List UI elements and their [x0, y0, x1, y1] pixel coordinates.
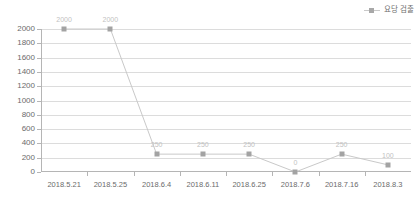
y-axis-tick-label: 1000 — [1, 97, 35, 105]
line-chart: 요당 검출 2000180016001400120010008006004002… — [0, 0, 420, 208]
y-axis-tick-mark — [37, 129, 41, 130]
y-axis-tick-label: 400 — [1, 139, 35, 147]
y-axis-tick-mark — [37, 72, 41, 73]
y-axis-tick-mark — [37, 143, 41, 144]
data-point-label: 250 — [243, 141, 255, 149]
gridline — [42, 101, 411, 102]
legend-marker-icon — [369, 8, 374, 13]
gridline — [42, 43, 411, 44]
y-axis-tick-mark — [37, 101, 41, 102]
x-axis-tick-label: 2018.6.11 — [186, 180, 219, 189]
x-axis-tick-mark — [365, 172, 366, 176]
y-axis-tick-label: 800 — [1, 111, 35, 119]
y-axis-tick-label: 1600 — [1, 54, 35, 62]
x-axis-tick-mark — [319, 172, 320, 176]
gridline — [42, 72, 411, 73]
plot-area — [41, 29, 411, 172]
gridline — [42, 129, 411, 130]
x-axis-tick-mark — [226, 172, 227, 176]
data-point-label: 100 — [382, 152, 394, 160]
y-axis-tick-label: 1400 — [1, 68, 35, 76]
data-point-marker[interactable] — [247, 152, 252, 157]
legend-line-swatch — [364, 10, 380, 11]
gridline — [42, 158, 411, 159]
y-axis-tick-mark — [37, 86, 41, 87]
x-axis-tick-label: 2018.6.4 — [142, 180, 171, 189]
x-axis-tick-label: 2018.8.3 — [373, 180, 402, 189]
data-point-label: 2000 — [103, 16, 119, 24]
data-point-marker[interactable] — [293, 170, 298, 175]
data-point-marker[interactable] — [339, 152, 344, 157]
data-point-label: 250 — [197, 141, 209, 149]
gridline — [42, 86, 411, 87]
x-axis-tick-mark — [87, 172, 88, 176]
gridline — [42, 115, 411, 116]
data-point-label: 2000 — [56, 16, 72, 24]
y-axis-tick-mark — [37, 158, 41, 159]
data-point-label: 250 — [336, 141, 348, 149]
data-point-marker[interactable] — [62, 27, 67, 32]
data-point-marker[interactable] — [108, 27, 113, 32]
x-axis-tick-label: 2018.6.25 — [232, 180, 265, 189]
x-axis-tick-label: 2018.7.6 — [281, 180, 310, 189]
y-axis-tick-mark — [37, 172, 41, 173]
legend-item-label: 요당 검출 — [384, 5, 414, 15]
data-point-label: 0 — [293, 159, 297, 167]
y-axis-tick-mark — [37, 29, 41, 30]
x-axis-tick-mark — [180, 172, 181, 176]
y-axis-tick-label: 200 — [1, 154, 35, 162]
x-axis-tick-label: 2018.7.16 — [325, 180, 358, 189]
data-point-label: 250 — [151, 141, 163, 149]
x-axis-tick-label: 2018.5.21 — [47, 180, 80, 189]
y-axis-tick-mark — [37, 58, 41, 59]
data-point-marker[interactable] — [154, 152, 159, 157]
x-axis-tick-label: 2018.5.25 — [94, 180, 127, 189]
gridline — [42, 29, 411, 30]
chart-legend: 요당 검출 — [364, 4, 414, 16]
y-axis-tick-label: 0 — [1, 168, 35, 176]
gridline — [42, 143, 411, 144]
data-point-marker[interactable] — [385, 162, 390, 167]
y-axis-tick-mark — [37, 115, 41, 116]
y-axis-tick-mark — [37, 43, 41, 44]
y-axis-tick-label: 2000 — [1, 25, 35, 33]
data-point-marker[interactable] — [200, 152, 205, 157]
x-axis-tick-mark — [272, 172, 273, 176]
x-axis-tick-mark — [134, 172, 135, 176]
y-axis-tick-label: 1200 — [1, 82, 35, 90]
y-axis-tick-label: 600 — [1, 125, 35, 133]
gridline — [42, 58, 411, 59]
y-axis-tick-label: 1800 — [1, 39, 35, 47]
